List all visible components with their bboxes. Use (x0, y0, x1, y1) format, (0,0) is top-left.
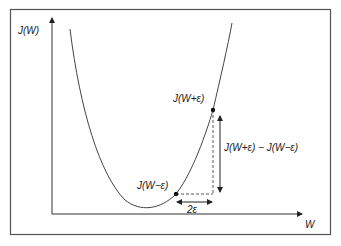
vertical-difference-label: J(W+ε) − J(W−ε) (224, 143, 298, 153)
label-w-minus-eps: J(W−ε) (137, 181, 168, 191)
x-axis-label: W (305, 220, 314, 230)
point-w-minus-eps (174, 192, 178, 196)
point-w-plus-eps (211, 108, 215, 112)
label-w-plus-eps: J(W+ε) (173, 94, 204, 104)
outer-frame (11, 10, 331, 235)
horizontal-step-label: 2ε (187, 205, 197, 215)
y-axis-label: J(W) (18, 26, 39, 36)
diagram-canvas (0, 0, 341, 246)
